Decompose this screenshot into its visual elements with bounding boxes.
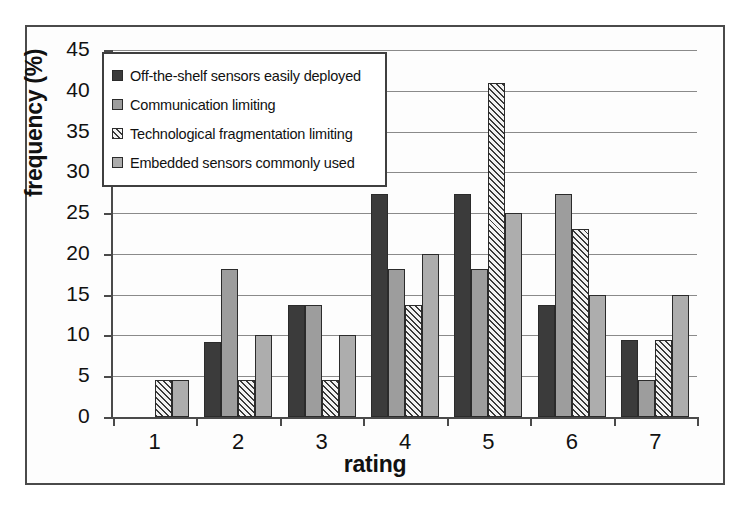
bar (572, 229, 589, 417)
bar (555, 194, 572, 417)
x-axis-tick (280, 417, 282, 426)
legend-swatch-icon (112, 128, 123, 139)
legend-swatch-icon (112, 70, 123, 81)
x-axis-tick-label: 4 (363, 429, 447, 455)
bar (288, 305, 305, 417)
y-axis-tick-label: 45 (30, 37, 90, 61)
x-axis-tick-label: 2 (196, 429, 280, 455)
y-axis-tick (104, 295, 113, 297)
x-axis-tick (363, 417, 365, 426)
x-axis-tick (113, 417, 115, 426)
bar (672, 295, 689, 417)
bar (172, 380, 189, 418)
x-axis-title: rating (27, 451, 723, 478)
legend-item: Communication limiting (112, 90, 379, 119)
bar (538, 305, 555, 417)
bar-group (614, 50, 697, 417)
bar (621, 340, 638, 417)
bar (238, 380, 255, 418)
bar (305, 305, 322, 417)
y-axis-tick (104, 213, 113, 215)
y-axis-tick-label: 0 (30, 404, 90, 428)
bar (204, 342, 221, 417)
legend-label: Technological fragmentation limiting (130, 126, 353, 142)
x-axis-tick (614, 417, 616, 426)
x-axis-tick (530, 417, 532, 426)
bar (371, 194, 388, 417)
bar (638, 380, 655, 418)
bar (589, 295, 606, 417)
y-axis-tick (104, 417, 113, 419)
legend-label: Off-the-shelf sensors easily deployed (130, 68, 361, 84)
x-axis-tick-label: 1 (113, 429, 197, 455)
chart-legend: Off-the-shelf sensors easily deployedCom… (102, 52, 387, 187)
y-axis-tick (104, 254, 113, 256)
y-axis-tick-label: 10 (30, 322, 90, 346)
bar (488, 83, 505, 417)
bar (454, 194, 471, 417)
bar-group (447, 50, 530, 417)
y-axis-tick-label: 15 (30, 282, 90, 306)
bar (388, 269, 405, 417)
chart-figure: frequency (%) rating 051015202530354045 … (25, 25, 725, 485)
bar (471, 269, 488, 417)
bar (655, 340, 672, 417)
x-axis-tick-label: 7 (613, 429, 697, 455)
y-axis-tick (104, 335, 113, 337)
x-axis-tick (196, 417, 198, 426)
bar (255, 335, 272, 417)
y-axis-tick-label: 20 (30, 241, 90, 265)
y-axis-tick (104, 376, 113, 378)
legend-swatch-icon (112, 157, 123, 168)
y-axis-tick-label: 5 (30, 363, 90, 387)
legend-item: Technological fragmentation limiting (112, 119, 379, 148)
x-axis-tick-label: 6 (530, 429, 614, 455)
legend-item: Off-the-shelf sensors easily deployed (112, 61, 379, 90)
legend-label: Embedded sensors commonly used (130, 155, 355, 171)
bar (422, 254, 439, 417)
bar-group (530, 50, 613, 417)
y-axis-tick-label: 25 (30, 200, 90, 224)
y-axis-tick-label: 30 (30, 159, 90, 183)
bar (339, 335, 356, 417)
y-axis-tick-label: 40 (30, 78, 90, 102)
bar (322, 380, 339, 418)
bar (405, 305, 422, 417)
legend-swatch-icon (112, 99, 123, 110)
bar (505, 213, 522, 417)
x-axis-tick (697, 417, 699, 426)
bar (221, 269, 238, 417)
x-axis-tick-label: 5 (446, 429, 530, 455)
y-axis-tick-label: 35 (30, 119, 90, 143)
bar (155, 380, 172, 418)
legend-item: Embedded sensors commonly used (112, 148, 379, 177)
x-axis-tick-label: 3 (280, 429, 364, 455)
legend-label: Communication limiting (130, 97, 276, 113)
x-axis-tick (447, 417, 449, 426)
